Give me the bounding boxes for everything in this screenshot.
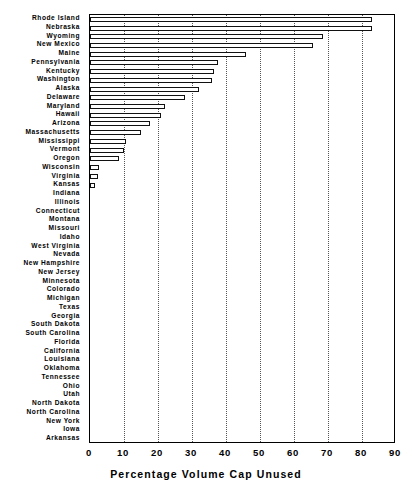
- category-label: Utah: [0, 390, 84, 399]
- category-label: Illinois: [0, 198, 84, 207]
- bar-row: [90, 303, 394, 312]
- bar: [90, 121, 150, 126]
- bar: [90, 26, 372, 31]
- category-label: Michigan: [0, 294, 84, 303]
- category-label: Pennsylvania: [0, 58, 84, 67]
- x-tick-label: 0: [86, 448, 92, 458]
- bar-row: [90, 50, 394, 59]
- category-label: New Mexico: [0, 40, 84, 49]
- bar-row: [90, 207, 394, 216]
- category-label: Missouri: [0, 224, 84, 233]
- bar: [90, 69, 214, 74]
- bar-row: [90, 102, 394, 111]
- bar-row: [90, 181, 394, 190]
- bar-row: [90, 311, 394, 320]
- bar-row: [90, 294, 394, 303]
- bar: [90, 165, 99, 170]
- category-label: South Carolina: [0, 329, 84, 338]
- category-label: Tennessee: [0, 373, 84, 382]
- bar: [90, 17, 372, 22]
- bar-row: [90, 198, 394, 207]
- bar-row: [90, 189, 394, 198]
- category-label: Massachusetts: [0, 128, 84, 137]
- bar: [90, 95, 185, 100]
- bar-row: [90, 216, 394, 225]
- category-label: Louisiana: [0, 355, 84, 364]
- bar-row: [90, 355, 394, 364]
- category-label: Wisconsin: [0, 163, 84, 172]
- bar-row: [90, 250, 394, 259]
- category-label: Kansas: [0, 180, 84, 189]
- bar-row: [90, 24, 394, 33]
- bar: [90, 174, 98, 179]
- bar-row: [90, 32, 394, 41]
- category-label: Arizona: [0, 119, 84, 128]
- x-tick-label: 80: [355, 448, 367, 458]
- x-axis-title: Percentage Volume Cap Unused: [0, 468, 412, 480]
- x-tick-label: 20: [151, 448, 163, 458]
- bar-row: [90, 15, 394, 24]
- category-label: North Carolina: [0, 408, 84, 417]
- category-label: New Hampshire: [0, 259, 84, 268]
- bar-row: [90, 111, 394, 120]
- plot-area: [89, 14, 395, 443]
- bar-row: [90, 390, 394, 399]
- category-label: New Jersey: [0, 268, 84, 277]
- category-label: California: [0, 347, 84, 356]
- x-tick-label: 30: [185, 448, 197, 458]
- bar-row: [90, 381, 394, 390]
- category-label: Oregon: [0, 154, 84, 163]
- category-label: Kentucky: [0, 67, 84, 76]
- category-label: Minnesota: [0, 277, 84, 286]
- bar-row: [90, 407, 394, 416]
- x-tick-label: 90: [389, 448, 401, 458]
- category-label: Florida: [0, 338, 84, 347]
- bar-row: [90, 259, 394, 268]
- bar: [90, 113, 161, 118]
- bar-row: [90, 163, 394, 172]
- bar-row: [90, 85, 394, 94]
- bar: [90, 43, 313, 48]
- category-label: Arkansas: [0, 434, 84, 443]
- bar-row: [90, 233, 394, 242]
- bar-row: [90, 285, 394, 294]
- x-tick-label: 50: [253, 448, 265, 458]
- category-label: Rhode Island: [0, 14, 84, 23]
- category-label: New York: [0, 417, 84, 426]
- category-label: South Dakota: [0, 320, 84, 329]
- bar-row: [90, 120, 394, 129]
- category-label: Montana: [0, 215, 84, 224]
- bar-row: [90, 399, 394, 408]
- bar-row: [90, 416, 394, 425]
- bar: [90, 52, 246, 57]
- category-label: Connecticut: [0, 207, 84, 216]
- bar-row: [90, 128, 394, 137]
- bar-row: [90, 277, 394, 286]
- bar-row: [90, 268, 394, 277]
- bar: [90, 78, 212, 83]
- category-label: Maine: [0, 49, 84, 58]
- category-label: Wyoming: [0, 32, 84, 41]
- bar-row: [90, 76, 394, 85]
- bar-row: [90, 338, 394, 347]
- bar-row: [90, 41, 394, 50]
- category-label: Virginia: [0, 172, 84, 181]
- x-tick-label: 40: [219, 448, 231, 458]
- bar-row: [90, 425, 394, 434]
- bar-row: [90, 59, 394, 68]
- bars-container: [90, 15, 394, 442]
- category-label: Iowa: [0, 425, 84, 434]
- x-tick-label: 10: [117, 448, 129, 458]
- category-label: West Virginia: [0, 242, 84, 251]
- category-label: Nevada: [0, 250, 84, 259]
- bar: [90, 60, 218, 65]
- bar-row: [90, 93, 394, 102]
- bar-row: [90, 137, 394, 146]
- category-label: Washington: [0, 75, 84, 84]
- bar-row: [90, 372, 394, 381]
- category-label: Alaska: [0, 84, 84, 93]
- bar-row: [90, 67, 394, 76]
- bar: [90, 87, 199, 92]
- bar: [90, 156, 119, 161]
- category-label: Georgia: [0, 312, 84, 321]
